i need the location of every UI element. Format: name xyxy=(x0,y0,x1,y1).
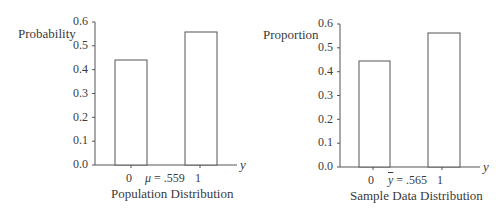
y-tick-label: 0.2 xyxy=(307,112,333,127)
y-tick-label: 0.4 xyxy=(62,62,88,77)
sample-mean-annotation: y = .565 xyxy=(388,173,427,188)
bar-y1 xyxy=(185,32,217,165)
mu-symbol: μ xyxy=(145,171,151,185)
bar-y0 xyxy=(115,60,147,165)
y-tick-label: 0.0 xyxy=(307,159,333,174)
population-distribution-chart: Probability 0.6 0.5 0.4 0.3 0.2 0.1 0.0 … xyxy=(0,0,250,210)
y-tick-label: 0.4 xyxy=(307,64,333,79)
ybar-symbol: y xyxy=(388,173,393,187)
y-tick-label: 0.6 xyxy=(62,14,88,29)
mean-value: = .559 xyxy=(154,171,185,185)
y-tick-label: 0.2 xyxy=(62,110,88,125)
x-tick-label: 1 xyxy=(188,171,208,186)
x-tick-label: 0 xyxy=(119,171,139,186)
bar-y1 xyxy=(428,33,460,167)
sample-mean-value: = .565 xyxy=(396,173,427,187)
mean-annotation: μ = .559 xyxy=(145,171,185,186)
y-tick-label: 0.0 xyxy=(62,157,88,172)
bar-y0 xyxy=(359,61,390,167)
x-axis-variable: y xyxy=(240,157,246,173)
x-tick-label: 1 xyxy=(430,173,450,188)
y-tick-label: 0.1 xyxy=(307,135,333,150)
chart-caption: Sample Data Distribution xyxy=(350,188,483,204)
sample-data-distribution-chart: Proportion 0.6 0.5 0.4 0.3 0.2 0.1 0.0 0… xyxy=(250,0,500,210)
chart-caption: Population Distribution xyxy=(111,186,233,202)
y-tick-label: 0.3 xyxy=(307,88,333,103)
x-axis-variable: y xyxy=(483,159,489,175)
y-tick-label: 0.6 xyxy=(307,16,333,31)
y-tick-label: 0.5 xyxy=(307,40,333,55)
y-tick-label: 0.3 xyxy=(62,86,88,101)
x-tick-label: 0 xyxy=(361,173,381,188)
y-tick-label: 0.1 xyxy=(62,133,88,148)
y-tick-label: 0.5 xyxy=(62,38,88,53)
